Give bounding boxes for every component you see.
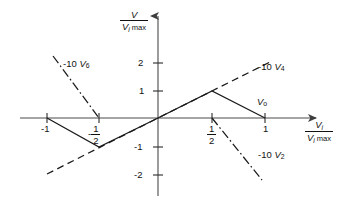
chart-plot [0, 0, 345, 204]
x-tick-pos-half-numerator: 1 [207, 124, 216, 135]
y-tick-label-neg-2: -2 [134, 170, 142, 180]
annotation-vo: Vo [257, 97, 267, 108]
annotation-vo-subscript: o [263, 100, 267, 107]
figure-container: V Vi max Vi Vi max 2 1 -1 -2 -1 - 1 2 1 … [0, 0, 345, 204]
y-tick-label-1: 1 [139, 86, 144, 96]
annotation-v6-subscript: 6 [86, 62, 90, 69]
series-line-vo [47, 91, 265, 147]
y-axis-denominator: Vi max [120, 21, 148, 33]
x-tick-label-pos-half: 1 2 [207, 124, 216, 146]
annotation-v6-prefix: -10 [63, 58, 79, 69]
x-tick-label-1: 1 [263, 124, 268, 134]
annotation-v2-subscript: 2 [281, 153, 285, 160]
annotation-v4: -10 V4 [258, 62, 285, 73]
series-line-v2 [212, 118, 262, 180]
annotation-v2: -10 V2 [258, 150, 285, 161]
y-tick-label-neg-1: -1 [134, 142, 142, 152]
x-axis-label: Vi Vi max [305, 120, 333, 143]
x-axis-numerator: Vi [305, 120, 333, 132]
x-tick-neg-half-denominator: 2 [91, 135, 100, 146]
y-axis-label: V Vi max [120, 10, 148, 33]
y-axis-numerator: V [120, 10, 148, 21]
x-tick-pos-half-denominator: 2 [207, 135, 216, 146]
x-axis-denominator: Vi max [305, 132, 333, 144]
annotation-v2-prefix: -10 [258, 149, 274, 160]
annotation-v4-subscript: 4 [281, 65, 285, 72]
x-tick-label-neg-half: - 1 2 [88, 124, 100, 146]
annotation-v4-prefix: -10 [258, 61, 274, 72]
annotation-v6: -10 V6 [63, 59, 90, 70]
x-tick-neg-half-numerator: 1 [91, 124, 100, 135]
x-tick-label-neg-1: -1 [41, 124, 49, 134]
y-tick-label-2: 2 [138, 58, 143, 68]
